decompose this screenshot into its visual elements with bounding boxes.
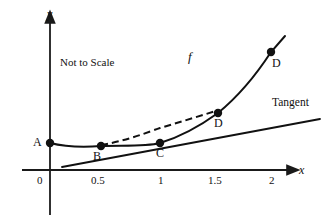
figure-canvas: y x Not to Scale f Tangent A B C D D 0 0…	[0, 0, 332, 224]
point-d2-marker	[267, 48, 275, 56]
point-a-marker	[46, 139, 54, 147]
x-tick-label-1point5: 1.5	[208, 175, 222, 186]
x-tick-label-1: 1	[158, 175, 164, 186]
x-tick-label-0point5: 0.5	[91, 175, 105, 186]
diagram-svg	[0, 0, 332, 224]
point-label-d-upper: D	[272, 57, 281, 69]
curve-f-label: f	[188, 50, 192, 63]
point-label-c: C	[156, 147, 164, 159]
not-to-scale-note: Not to Scale	[60, 57, 114, 68]
point-label-a: A	[33, 136, 42, 148]
point-label-b: B	[93, 150, 101, 162]
x-tick-label-2: 2	[269, 175, 275, 186]
x-axis-label: x	[299, 164, 304, 176]
tangent-label: Tangent	[272, 97, 309, 109]
y-axis-label: y	[47, 8, 52, 20]
point-label-d-middle: D	[214, 117, 223, 129]
curve-f	[50, 36, 285, 147]
x-tick-label-0: 0	[37, 175, 43, 186]
